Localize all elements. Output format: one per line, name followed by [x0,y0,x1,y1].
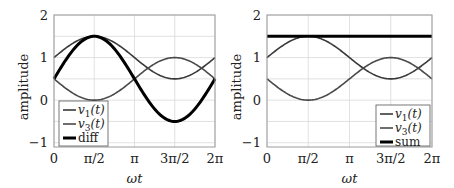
x-tick-label: 3π/2 [160,151,189,166]
x-tick-label: 0 [50,151,58,166]
x-tick-label: 3π/2 [376,151,405,166]
y-tick-label: 1 [40,50,48,65]
right-y-axis-label: amplitude [229,54,244,121]
y-tick-label: −1 [29,135,48,150]
y-tick-label: 0 [40,93,48,108]
right-chart-panel: −1012 0π/2π3π/22π amplitude ωt v1(t)v3(t… [229,8,441,187]
right-x-tick-labels: 0π/2π3π/22π [263,151,441,166]
left-chart-panel: −1012 0π/2π3π/22π amplitude ωt v1(t)v3(t… [16,8,224,187]
x-tick-label: 0 [263,151,271,166]
y-tick-label: 1 [253,50,261,65]
right-legend: v1(t)v3(t)sum [376,105,430,149]
legend-label: diff [78,131,100,145]
left-y-tick-labels: −1012 [29,8,48,151]
x-tick-label: π/2 [298,151,319,166]
x-tick-label: 2π [424,151,441,166]
x-tick-label: π [130,151,139,166]
left-legend: v1(t)v3(t)diff [59,101,108,146]
left-x-axis-label: ωt [127,171,144,186]
x-tick-label: π [345,151,354,166]
figure: −1012 0π/2π3π/22π amplitude ωt v1(t)v3(t… [0,0,454,188]
y-tick-label: −1 [242,135,261,150]
x-tick-label: 2π [207,151,224,166]
right-x-axis-label: ωt [342,171,359,186]
legend-label: sum [395,135,421,149]
y-tick-label: 2 [40,8,48,23]
y-tick-label: 2 [253,8,261,23]
left-x-tick-labels: 0π/2π3π/22π [50,151,224,166]
y-tick-label: 0 [253,93,261,108]
left-y-axis-label: amplitude [16,54,31,121]
x-tick-label: π/2 [84,151,105,166]
right-y-tick-labels: −1012 [242,8,261,151]
